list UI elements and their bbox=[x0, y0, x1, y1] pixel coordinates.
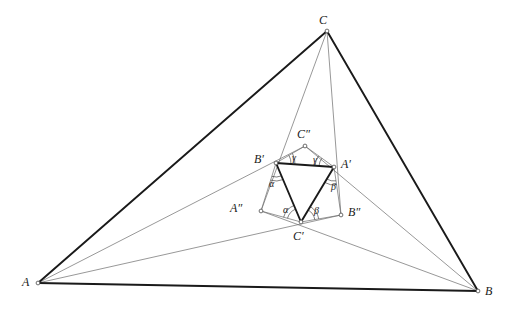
cevian-B-to-A1 bbox=[305, 146, 478, 291]
vertex-dot-Bpp bbox=[339, 213, 343, 217]
angle-alpha-at-C1: α bbox=[283, 205, 288, 215]
cevian-B-to-C1 bbox=[261, 211, 478, 291]
edge-B2C1 bbox=[301, 215, 341, 222]
label-B1: B′ bbox=[254, 153, 264, 165]
edge-AB bbox=[38, 283, 478, 291]
vertex-dot-App bbox=[259, 209, 263, 213]
label-B2: B″ bbox=[348, 206, 360, 218]
label-C1: C′ bbox=[293, 230, 304, 242]
vertex-dot-A bbox=[36, 281, 40, 285]
label-C2: C″ bbox=[297, 128, 310, 140]
label-A2: A″ bbox=[230, 202, 242, 214]
label-A1: A′ bbox=[341, 158, 351, 170]
vertex-dot-B bbox=[476, 289, 480, 293]
edge-C1A2 bbox=[261, 211, 301, 222]
vertex-dot-Cpp bbox=[303, 144, 307, 148]
angle-gamma-right: γ bbox=[313, 155, 317, 165]
angle-alpha-at-B1: α bbox=[269, 179, 274, 189]
angle-beta-at-C1: β bbox=[314, 206, 319, 216]
label-C: C bbox=[319, 14, 327, 26]
vertex-dot-Ap bbox=[332, 165, 336, 169]
label-B: B bbox=[485, 285, 492, 297]
angle-beta-at-A1: β bbox=[331, 182, 336, 192]
label-A: A bbox=[22, 276, 29, 288]
cevian-A-to-C1 bbox=[38, 215, 341, 283]
edge-B1A1 bbox=[276, 163, 334, 167]
geometry-figure: ABCA′B′C′A″B″C″ ααββγγ bbox=[0, 0, 507, 316]
angle-gamma-left: γ bbox=[292, 153, 296, 163]
vertex-dot-Cp bbox=[299, 220, 303, 224]
vertex-dot-C bbox=[325, 29, 329, 33]
vertex-dot-Bp bbox=[274, 161, 278, 165]
edge-C1B1 bbox=[276, 163, 301, 222]
